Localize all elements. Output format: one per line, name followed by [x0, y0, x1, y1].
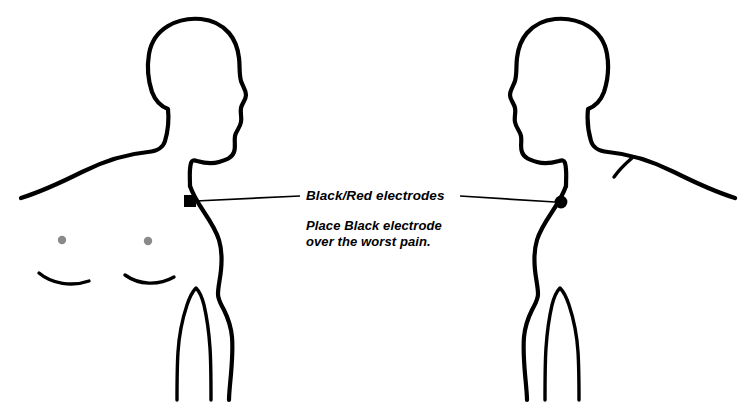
back-head-neck-outline	[510, 19, 735, 198]
back-electrode-leader-line	[460, 196, 555, 202]
front-torso-leg-outline	[177, 288, 211, 400]
callout-instruction-line-1: Place Black electrode	[306, 218, 442, 233]
front-head-neck-outline	[21, 19, 246, 198]
front-electrode-leader-line	[196, 196, 300, 201]
front-right-nipple-marker	[144, 237, 152, 245]
front-view-figure	[21, 19, 246, 400]
callout-title-label: Black/Red electrodes	[306, 188, 445, 203]
front-left-pectoral-curve	[39, 273, 89, 284]
front-right-pectoral-curve	[125, 275, 174, 283]
back-view-figure	[510, 19, 735, 400]
electrode-placement-diagram: Black/Red electrodes Place Black electro…	[0, 0, 750, 420]
front-left-nipple-marker	[58, 236, 66, 244]
front-electrode-marker[interactable]	[184, 195, 196, 207]
back-neck-crease	[614, 158, 632, 177]
back-torso-leg-outline	[545, 288, 579, 400]
back-electrode-marker[interactable]	[555, 196, 568, 209]
diagram-canvas: Black/Red electrodes Place Black electro…	[0, 0, 750, 420]
callout-instruction-line-2: over the worst pain.	[306, 234, 431, 249]
